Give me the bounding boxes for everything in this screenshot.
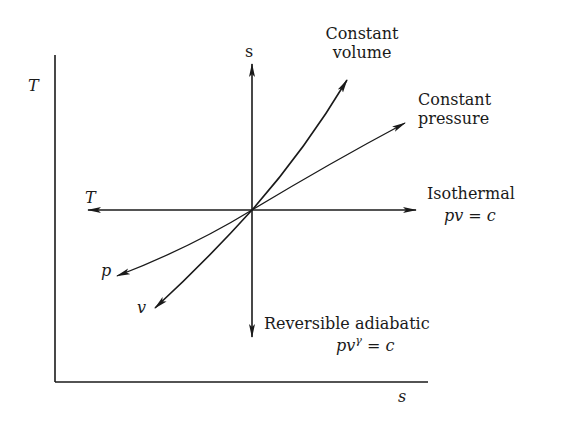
constant-pressure-line1: Constant bbox=[418, 92, 491, 108]
constant-volume-line2: volume bbox=[314, 45, 410, 61]
adiabatic-eq-base: pv bbox=[336, 336, 355, 355]
p-branch-label: p bbox=[101, 263, 111, 279]
constant-pressure-line2: pressure bbox=[418, 111, 491, 127]
isothermal-equation: pv = c bbox=[444, 208, 496, 224]
adiabatic-label: Reversible adiabatic bbox=[264, 316, 430, 332]
p-branch-curve bbox=[117, 210, 252, 276]
entropy-arrow-label: s bbox=[245, 44, 253, 60]
adiabatic-eq-rest: = c bbox=[362, 336, 395, 355]
s-axis-label: s bbox=[398, 389, 406, 405]
constant-volume-label: Constant volume bbox=[314, 26, 410, 61]
t-axis-label: T bbox=[28, 78, 39, 94]
v-branch-label: v bbox=[137, 300, 146, 316]
adiabatic-equation: pvγ = c bbox=[336, 338, 394, 354]
constant-volume-line1: Constant bbox=[314, 26, 410, 42]
temperature-arrow-label: T bbox=[85, 190, 96, 206]
constant-pressure-curve bbox=[252, 123, 405, 210]
isothermal-label: Isothermal bbox=[427, 186, 515, 202]
constant-pressure-label: Constant pressure bbox=[418, 92, 491, 127]
v-branch-curve bbox=[155, 210, 252, 308]
constant-volume-curve bbox=[252, 80, 347, 210]
adiabatic-eq-exponent: γ bbox=[355, 334, 362, 347]
